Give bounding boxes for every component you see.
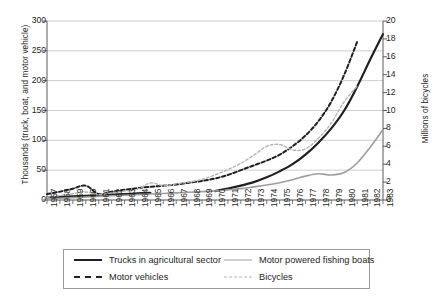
legend-swatch-solid-gray-icon: [224, 255, 252, 265]
x-tick-1969: 1969: [205, 189, 213, 207]
y-right-tick-10: 10: [386, 106, 412, 115]
y-left-tick-50: 50: [20, 165, 46, 174]
y-right-tick-8: 8: [386, 123, 412, 132]
line-chart: Thousands (truck, boat, and motor vehicl…: [0, 0, 433, 299]
y-right-tick-16: 16: [386, 52, 412, 61]
x-tick-1968: 1968: [193, 189, 201, 207]
x-tick-1980: 1980: [348, 189, 356, 207]
x-tick-1978: 1978: [322, 189, 330, 207]
x-tick-1962: 1962: [115, 189, 123, 207]
legend-label-motor-vehicles: Motor vehicles: [109, 272, 168, 282]
x-tick-1973: 1973: [257, 189, 265, 207]
x-tick-1970: 1970: [218, 189, 226, 207]
x-tick-1983: 1983: [386, 189, 394, 207]
axis-ticks: [43, 21, 387, 204]
legend-item-bicycles: Bicycles: [224, 272, 293, 282]
y-right-tick-6: 6: [386, 141, 412, 150]
y-left-tick-0: 0: [20, 195, 46, 204]
x-tick-1977: 1977: [309, 189, 317, 207]
y-left-tick-100: 100: [20, 135, 46, 144]
x-tick-1958: 1958: [63, 189, 71, 207]
y-right-tick-4: 4: [386, 159, 412, 168]
series-line-trucks-in-agricultural-sector: [215, 34, 383, 191]
x-tick-1957: 1957: [50, 189, 58, 207]
x-tick-1975: 1975: [283, 189, 291, 207]
legend-swatch-dotted-gray-icon: [224, 272, 252, 282]
y-left-tick-250: 250: [20, 46, 46, 55]
legend-swatch-dashed-black-icon: [74, 272, 102, 282]
x-tick-1965: 1965: [154, 189, 162, 207]
x-tick-1963: 1963: [128, 189, 136, 207]
y-right-tick-12: 12: [386, 88, 412, 97]
legend-label-fishing-boats: Motor powered fishing boats: [259, 255, 374, 265]
x-tick-1981: 1981: [361, 189, 369, 207]
gridlines: [47, 21, 383, 170]
y-left-tick-300: 300: [20, 16, 46, 25]
legend-label-bicycles: Bicycles: [259, 272, 293, 282]
x-tick-1961: 1961: [102, 189, 110, 207]
x-tick-1966: 1966: [167, 189, 175, 207]
legend-item-fishing-boats: Motor powered fishing boats: [224, 255, 374, 265]
y-right-tick-20: 20: [386, 16, 412, 25]
y-left-tick-200: 200: [20, 76, 46, 85]
x-tick-1971: 1971: [231, 189, 239, 207]
x-tick-1976: 1976: [296, 189, 304, 207]
y-left-tick-150: 150: [20, 106, 46, 115]
x-tick-1967: 1967: [180, 189, 188, 207]
x-tick-1960: 1960: [89, 189, 97, 207]
y-right-tick-14: 14: [386, 70, 412, 79]
x-tick-1974: 1974: [270, 189, 278, 207]
x-tick-1982: 1982: [373, 189, 381, 207]
y-right-tick-2: 2: [386, 177, 412, 186]
x-tick-1972: 1972: [244, 189, 252, 207]
data-series-group: [47, 34, 383, 199]
y-axis-right-title: Millions of bicycles: [421, 14, 430, 204]
series-line-motor-vehicles: [47, 42, 357, 194]
legend-swatch-solid-black-icon: [74, 255, 102, 265]
legend-item-trucks: Trucks in agricultural sector: [74, 255, 221, 265]
x-tick-1979: 1979: [335, 189, 343, 207]
legend-item-motor-vehicles: Motor vehicles: [74, 272, 168, 282]
legend-label-trucks: Trucks in agricultural sector: [109, 255, 221, 265]
x-tick-1964: 1964: [141, 189, 149, 207]
chart-legend: Trucks in agricultural sector Motor powe…: [63, 249, 370, 289]
x-tick-1959: 1959: [76, 189, 84, 207]
y-right-tick-18: 18: [386, 34, 412, 43]
